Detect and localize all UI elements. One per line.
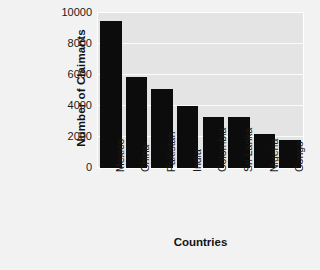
- gridline: [98, 12, 303, 13]
- x-axis-tick-label-text: China: [139, 145, 151, 172]
- x-axis-tick-label-text: Colombia: [216, 128, 228, 172]
- x-axis-tick-label: Pakistan: [148, 170, 174, 230]
- y-axis-tick-labels: 0200040006000800010000: [44, 0, 92, 175]
- x-axis-tick-label-text: Sri Lanka: [242, 128, 254, 172]
- x-axis-tick-label-text: Mexico: [114, 139, 126, 172]
- gridline: [98, 43, 303, 45]
- x-axis-tick-label: Mexico: [97, 170, 123, 230]
- x-axis-tick-label-text: Congo: [293, 141, 305, 172]
- y-axis-tick-label: 4000: [44, 99, 92, 111]
- y-axis-tick-label: 0: [44, 161, 92, 173]
- gridline: [98, 74, 303, 76]
- bar-chart-figure: Number of Claimants 02000400060008000100…: [0, 0, 320, 270]
- x-axis-tick-label: Sri Lanka: [225, 170, 251, 230]
- x-axis-tick-label-text: Pakistan: [165, 132, 177, 172]
- x-axis-tick-labels: MexicoChinaPakistanIndiaColombiaSri Lank…: [97, 170, 304, 230]
- y-axis-tick-label: 10000: [44, 6, 92, 18]
- x-axis-title: Countries: [97, 236, 304, 248]
- y-axis-tick-label: 2000: [44, 130, 92, 142]
- x-axis-tick-label-text: Nigeria: [268, 139, 280, 172]
- x-axis-tick-label: Colombia: [200, 170, 226, 230]
- x-axis-tick-label: Nigeria: [251, 170, 277, 230]
- y-axis-tick-label: 8000: [44, 37, 92, 49]
- x-axis-tick-label-text: India: [191, 149, 203, 172]
- y-axis-tick-label: 6000: [44, 68, 92, 80]
- x-axis-tick-label: Congo: [276, 170, 302, 230]
- x-axis-tick-label: India: [174, 170, 200, 230]
- x-axis-tick-label: China: [123, 170, 149, 230]
